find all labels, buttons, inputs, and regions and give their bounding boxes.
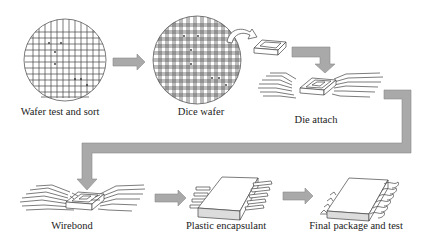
right-arrow-icon: [113, 54, 145, 70]
step-label-plastic-encapsulant: Plastic encapsulant: [186, 220, 266, 231]
step-label-dice-wafer: Dice wafer: [178, 106, 225, 117]
right-arrow-icon: [283, 188, 313, 204]
step-label-final-package-test: Final package and test: [309, 220, 403, 231]
step-label-wafer-test-sort: Wafer test and sort: [21, 106, 100, 117]
process-flow-diagram: Wafer test and sort Dice wafer: [0, 0, 430, 239]
final-package-icon: [320, 178, 399, 221]
right-arrow-icon: [155, 190, 186, 206]
diced-wafer-icon: [153, 16, 241, 104]
leadframe-die-icon: [258, 73, 383, 98]
picked-die-icon: [254, 40, 286, 55]
step-label-wirebond: Wirebond: [51, 220, 93, 231]
step-label-die-attach: Die attach: [295, 114, 339, 125]
down-arrow-icon: [292, 47, 335, 73]
curved-arrow-icon: [227, 29, 257, 43]
wirebond-icon: [20, 185, 145, 211]
encapsulated-chip-icon: [190, 177, 272, 220]
wafer-grid-icon: [24, 18, 106, 101]
return-elbow-arrow-icon: [77, 90, 411, 190]
